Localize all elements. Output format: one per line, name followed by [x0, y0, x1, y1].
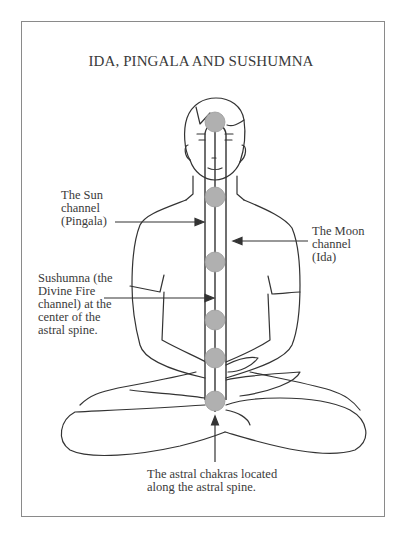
chakra-sacral	[205, 348, 225, 368]
astral-chakras-label: The astral chakras located along the ast…	[147, 468, 277, 494]
right-leg	[225, 398, 366, 453]
sushumna-label: Sushumna (the Divine Fire channel) at th…	[38, 272, 113, 337]
label-line: (Ida)	[312, 251, 364, 264]
sun-channel-label: The Sun channel (Pingala)	[61, 189, 107, 228]
chakra-throat	[205, 187, 225, 207]
label-line: (Pingala)	[61, 215, 107, 228]
chakra-navel	[205, 310, 225, 330]
moon-channel-label: The Moon channel (Ida)	[312, 225, 364, 264]
label-line: along the astral spine.	[147, 481, 277, 494]
right-torso	[226, 200, 300, 378]
chakra-crown	[205, 112, 225, 132]
label-line: astral spine.	[38, 324, 113, 337]
chakra-root	[205, 391, 225, 411]
chakra-heart	[205, 252, 225, 272]
